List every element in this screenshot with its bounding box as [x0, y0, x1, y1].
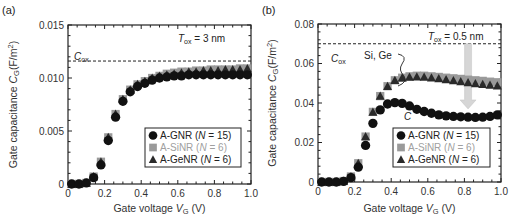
si-ge-annotation: Si, Ge [364, 50, 392, 61]
y-tick-label: 0.08 [295, 19, 315, 30]
x-tick-label: 0.2 [348, 186, 362, 197]
y-axis-label: Gate capacitance CG(F/m2) [265, 39, 280, 166]
legend-item: A-SiNR (N = 6) [149, 142, 227, 153]
legend-item: A-SiNR (N = 6) [397, 142, 475, 153]
legend-item: A-GeNR (N = 6) [397, 154, 480, 165]
x-tick-label: 1.0 [244, 188, 258, 199]
x-tick-label: 0.4 [134, 188, 148, 199]
x-tick-label: 0 [315, 186, 321, 197]
series-square [68, 64, 252, 188]
chart-panel-b: (b)00.20.40.60.81.000.020.040.060.08Gate… [262, 4, 508, 216]
panel-label: (b) [262, 4, 275, 16]
legend-label: A-GeNR (N = 6) [408, 154, 479, 165]
y-tick-label: 0.010 [39, 73, 64, 84]
legend: A-GNR (N = 15)A-SiNR (N = 6)A-GeNR (N = … [393, 128, 490, 167]
y-tick-label: 0.005 [39, 126, 64, 137]
legend-label: A-SiNR (N = 6) [160, 142, 227, 153]
x-axis-label: Gate voltage VG (V) [113, 202, 205, 216]
chart-canvas: (a)00.20.40.60.81.000.0050.0100.015Gate … [0, 0, 520, 223]
x-tick-label: 0.4 [384, 186, 398, 197]
x-axis-label: Gate voltage VG (V) [363, 202, 455, 216]
y-tick-label: 0 [58, 179, 64, 190]
figure: (a)00.20.40.60.81.000.0050.0100.015Gate … [0, 0, 520, 223]
x-tick-label: 0.8 [457, 186, 471, 197]
cox-label: Cox [74, 51, 89, 63]
y-tick-label: 0.015 [39, 20, 64, 31]
tox-annotation: Tox = 0.5 nm [428, 31, 483, 43]
x-tick-label: 1.0 [494, 186, 508, 197]
c-annotation: C [404, 111, 412, 122]
legend: A-GNR (N = 15)A-SiNR (N = 6)A-GeNR (N = … [145, 128, 241, 167]
x-tick-label: 0.8 [207, 188, 221, 199]
x-tick-label: 0.6 [171, 188, 185, 199]
legend-label: A-GNR (N = 15) [160, 130, 231, 141]
chart-panel-a: (a)00.20.40.60.81.000.0050.0100.015Gate … [2, 4, 258, 216]
y-tick-label: 0.02 [295, 137, 315, 148]
legend-item: A-GNR (N = 15) [397, 130, 480, 141]
y-tick-label: 0 [308, 177, 314, 188]
x-tick-label: 0.6 [421, 186, 435, 197]
legend-item: A-GNR (N = 15) [149, 130, 232, 141]
y-axis-label: Gate capacitance CG(F/m2) [6, 41, 21, 168]
legend-label: A-GeNR (N = 6) [160, 154, 231, 165]
panel-label: (a) [2, 4, 15, 16]
y-tick-label: 0.04 [295, 98, 315, 109]
cox-label: Cox [331, 53, 346, 65]
tox-annotation: Tox = 3 nm [178, 33, 225, 45]
legend-item: A-GeNR (N = 6) [149, 154, 232, 165]
x-tick-label: 0 [65, 188, 71, 199]
x-tick-label: 0.2 [98, 188, 112, 199]
legend-label: A-GNR (N = 15) [408, 130, 479, 141]
legend-label: A-SiNR (N = 6) [408, 142, 475, 153]
y-tick-label: 0.06 [295, 58, 315, 69]
